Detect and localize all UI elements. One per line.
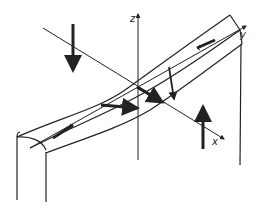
twisted-strip-diagram: z x y: [0, 0, 258, 211]
load-arrow-horizontal: [101, 105, 137, 108]
z-axis-label: z: [129, 13, 136, 24]
strip-marker-left: [53, 124, 73, 138]
load-arrow-down-right: [169, 67, 174, 99]
x-axis-label: x: [211, 136, 218, 147]
